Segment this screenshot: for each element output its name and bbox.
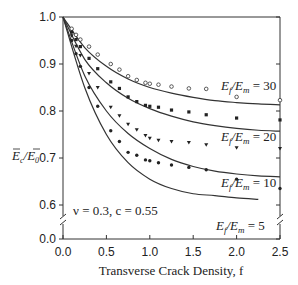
y-axis-label: Ec/E0 — [11, 148, 40, 165]
data-point — [205, 113, 208, 116]
data-point — [135, 100, 138, 103]
data-point — [109, 62, 113, 66]
data-point — [205, 168, 208, 171]
data-point — [148, 82, 152, 86]
data-point — [118, 140, 121, 143]
y-tick-label: 1.0 — [39, 10, 56, 24]
data-point — [87, 45, 91, 49]
x-tick-label: 0.5 — [98, 245, 115, 259]
data-point — [204, 87, 208, 91]
data-point — [204, 143, 208, 147]
data-point — [117, 114, 121, 118]
data-point — [109, 80, 112, 83]
data-point — [170, 140, 174, 144]
data-point — [70, 27, 74, 31]
data-point — [135, 128, 139, 132]
data-point — [96, 105, 99, 108]
data-point — [156, 139, 160, 143]
data-point — [96, 67, 99, 70]
data-point — [96, 86, 100, 90]
data-point — [278, 98, 282, 102]
series-label: Ef/Em = 5 — [215, 218, 265, 235]
data-point — [135, 78, 139, 82]
data-point — [144, 81, 148, 85]
svg-text:Ec/E0: Ec/E0 — [11, 148, 39, 165]
data-point — [135, 153, 138, 156]
x-tick-label: 2.0 — [228, 245, 245, 259]
parameter-annotation: ν = 0.3, c = 0.55 — [73, 203, 158, 218]
data-points — [70, 27, 282, 190]
data-point — [70, 39, 73, 42]
data-point — [235, 116, 238, 119]
x-axis-label: Transverse Crack Density, f — [99, 263, 244, 278]
model-curve — [63, 17, 258, 199]
data-point — [118, 68, 122, 72]
data-point — [143, 134, 147, 138]
data-point — [74, 52, 77, 55]
data-point — [87, 72, 91, 76]
data-point — [170, 163, 173, 166]
data-point — [278, 187, 281, 190]
data-point — [157, 83, 161, 87]
data-point — [144, 158, 147, 161]
data-point — [148, 105, 151, 108]
data-point — [87, 57, 90, 60]
chart: 0.00.51.01.52.02.50.00.60.70.80.91.0 Ef/… — [0, 0, 298, 285]
data-point — [170, 85, 174, 89]
y-tick-label: 0.7 — [39, 151, 56, 165]
data-point — [118, 87, 121, 90]
data-point — [278, 147, 282, 151]
y-tick-label: 0.8 — [39, 104, 56, 118]
data-point — [187, 110, 190, 113]
series-label: Ef/Em = 10 — [220, 175, 276, 192]
data-point — [126, 123, 130, 127]
data-point — [187, 141, 191, 145]
data-point — [70, 30, 73, 33]
x-tick-label: 1.5 — [185, 245, 202, 259]
data-point — [278, 118, 281, 121]
y-tick-label: 0.6 — [39, 198, 56, 212]
data-point — [79, 45, 82, 48]
data-point — [157, 161, 160, 164]
data-point — [148, 137, 152, 141]
data-point — [235, 95, 239, 99]
data-point — [109, 129, 112, 132]
model-curve — [63, 17, 280, 177]
model-curves — [63, 17, 280, 199]
data-point — [157, 106, 160, 109]
data-point — [87, 86, 90, 89]
data-point — [109, 106, 113, 110]
y-tick-label: 0.9 — [39, 57, 56, 71]
y-tick-label: 0.0 — [39, 232, 56, 246]
data-point — [187, 166, 190, 169]
data-point — [78, 54, 82, 58]
data-point — [74, 33, 78, 37]
data-point — [79, 38, 83, 42]
series-label: Ef/Em = 30 — [220, 78, 276, 95]
series-label: Ef/Em = 20 — [220, 129, 276, 146]
data-point — [126, 151, 129, 154]
x-tick-label: 2.5 — [272, 245, 289, 259]
data-point — [144, 104, 147, 107]
data-point — [79, 65, 82, 68]
x-tick-label: 0.0 — [55, 245, 72, 259]
data-point — [235, 146, 239, 150]
data-point — [170, 108, 173, 111]
data-point — [126, 74, 130, 78]
data-point — [148, 159, 151, 162]
data-point — [187, 87, 191, 91]
data-point — [127, 95, 130, 98]
data-point — [74, 38, 77, 41]
x-tick-label: 1.0 — [141, 245, 158, 259]
data-point — [96, 53, 100, 57]
